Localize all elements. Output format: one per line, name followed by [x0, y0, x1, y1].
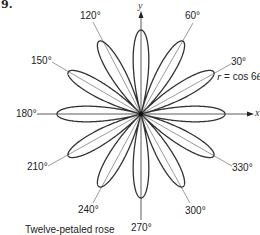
equation-theta: θ — [257, 70, 260, 82]
angle-label-210: 210° — [27, 162, 48, 172]
rose-diagram: 9. y x r = cos 6θ 30°60°120°150°180°210°… — [0, 0, 260, 235]
x-axis-arrow-icon — [247, 112, 254, 117]
angle-label-240: 240° — [78, 205, 99, 215]
x-axis-label: x — [255, 107, 259, 118]
angle-label-60: 60° — [185, 11, 200, 21]
origin-dot — [139, 112, 143, 116]
figure-caption: Twelve-petaled rose — [25, 224, 115, 235]
angle-label-270: 270° — [131, 223, 152, 233]
y-axis-arrow-icon — [139, 11, 144, 18]
angle-label-180: 180° — [16, 109, 37, 119]
equation-label: r = cos 6θ — [217, 70, 260, 82]
problem-number: 9. — [1, 0, 12, 11]
angle-label-150: 150° — [31, 56, 52, 66]
angle-label-300: 300° — [185, 206, 206, 216]
angle-label-30: 30° — [231, 57, 246, 67]
equation-body: = cos 6 — [221, 71, 256, 82]
angle-label-330: 330° — [232, 163, 253, 173]
angle-label-120: 120° — [80, 11, 101, 21]
y-axis-label: y — [138, 0, 142, 11]
rose-plot — [0, 0, 260, 235]
